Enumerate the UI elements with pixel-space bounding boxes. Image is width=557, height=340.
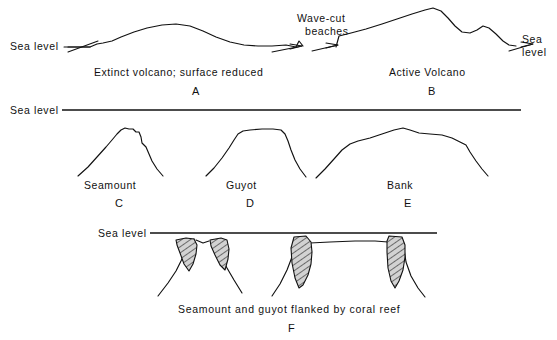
letter-e: E [404, 197, 412, 209]
letter-d: D [246, 197, 254, 209]
panel-a: Sea level Extinct volcano; surface reduc… [10, 24, 303, 97]
sea-level-label-bottom: Sea level [98, 227, 147, 239]
letter-b: B [428, 85, 436, 97]
sea-level-label-top-right-line1: Sea [522, 33, 542, 45]
guyot-profile [206, 129, 306, 177]
panel-d: Guyot D [206, 129, 306, 209]
caption-a: Extinct volcano; surface reduced [94, 66, 263, 78]
panel-c: Seamount C [78, 128, 163, 209]
letter-c: C [115, 197, 123, 209]
caption-c: Seamount [84, 179, 136, 191]
active-volcano-profile [336, 8, 516, 47]
bank-profile [316, 128, 488, 178]
seamount-with-reef [158, 238, 242, 296]
sea-level-label-top-right-line2: level [522, 46, 547, 58]
caption-d: Guyot [226, 179, 257, 191]
extinct-volcano-profile [68, 24, 296, 47]
caption-e: Bank [387, 179, 413, 191]
wave-cut-label-line1: Wave-cut [297, 12, 345, 24]
caption-b: Active Volcano [389, 66, 466, 78]
guyot-with-reef [272, 236, 425, 297]
seamount-reef-saddle [196, 240, 209, 243]
caption-f: Seamount and guyot flanked by coral reef [178, 303, 400, 315]
diagram-root: Sea level Extinct volcano; surface reduc… [0, 0, 557, 340]
sea-level-label-top-left: Sea level [10, 40, 59, 52]
coral-reef-wedge-guyot-left [291, 236, 312, 288]
seamount-profile [78, 128, 163, 176]
letter-a: A [192, 85, 200, 97]
letter-f: F [288, 322, 295, 334]
panel-b: Wave-cut beaches Sea level Active Volcan… [297, 8, 547, 97]
coral-reef-wedge-guyot-right [387, 236, 405, 288]
sea-level-label-middle: Sea level [10, 104, 59, 116]
panel-e: Bank E [316, 128, 488, 209]
panel-f: Sea level Seamount and guyot flanked by … [98, 227, 437, 334]
guyot-flat-top [310, 241, 388, 243]
coral-reef-wedge-seamount-left [176, 238, 197, 271]
middle-row: Sea level [10, 104, 521, 116]
coral-reef-wedge-seamount-right [210, 238, 229, 270]
figure-svg: Sea level Extinct volcano; surface reduc… [0, 0, 557, 340]
